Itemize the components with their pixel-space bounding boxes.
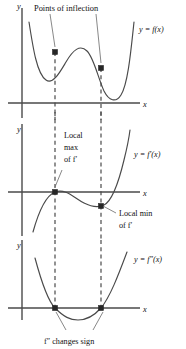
- panel-fprime: y x Local max of f′ Local min of f′ y = …: [8, 112, 161, 240]
- panel-fdoubleprime-y-axis-label: y: [16, 241, 21, 250]
- panel-f-leader-left: [50, 14, 55, 47]
- panel-fdoubleprime-x-axis-label: x: [142, 305, 147, 314]
- panel-f-y-axis-label: y: [16, 2, 21, 11]
- panel-fprime-y-axis-label: y: [16, 125, 21, 134]
- inflection-point-left-marker: [52, 49, 57, 54]
- panel-fprime-leader-left: [55, 170, 62, 187]
- panel-f-curve: [29, 22, 134, 100]
- panel-fdoubleprime-leader-left: [56, 312, 66, 330]
- inflection-figure: y x Points of inflection y = f(x) y x: [0, 0, 186, 349]
- panel-fdoubleprime: y x y = f″(x) f″ changes sign: [8, 240, 162, 346]
- local-min-label-line2: of f′: [119, 221, 133, 230]
- sign-change-left-marker: [52, 305, 57, 310]
- sign-change-right-marker: [98, 305, 103, 310]
- panel-fprime-x-axis-label: x: [142, 189, 147, 198]
- local-max-point-marker: [52, 189, 57, 194]
- panel-fdoubleprime-curve-label: y = f″(x): [133, 255, 162, 264]
- panel-fdoubleprime-curve: [35, 252, 127, 320]
- local-max-label-line1: Local: [64, 131, 83, 140]
- panel-fprime-curve-label: y = f′(x): [133, 150, 161, 159]
- figure-canvas: y x Points of inflection y = f(x) y x: [0, 0, 186, 349]
- points-of-inflection-title: Points of inflection: [34, 4, 99, 13]
- panel-fprime-curve: [33, 130, 130, 232]
- panel-fprime-leader-right: [103, 206, 116, 213]
- panel-f: y x Points of inflection y = f(x): [8, 2, 164, 120]
- panel-f-curve-label: y = f(x): [138, 25, 164, 34]
- sign-change-caption: f″ changes sign: [44, 337, 94, 346]
- local-min-label-line1: Local min: [119, 209, 152, 218]
- local-max-label-line2: max: [64, 143, 78, 152]
- panel-f-leader-right: [96, 14, 101, 63]
- panel-f-x-axis-label: x: [142, 100, 147, 109]
- local-max-label-line3: of f′: [64, 155, 78, 164]
- inflection-point-right-marker: [98, 65, 103, 70]
- local-min-point-marker: [98, 203, 103, 208]
